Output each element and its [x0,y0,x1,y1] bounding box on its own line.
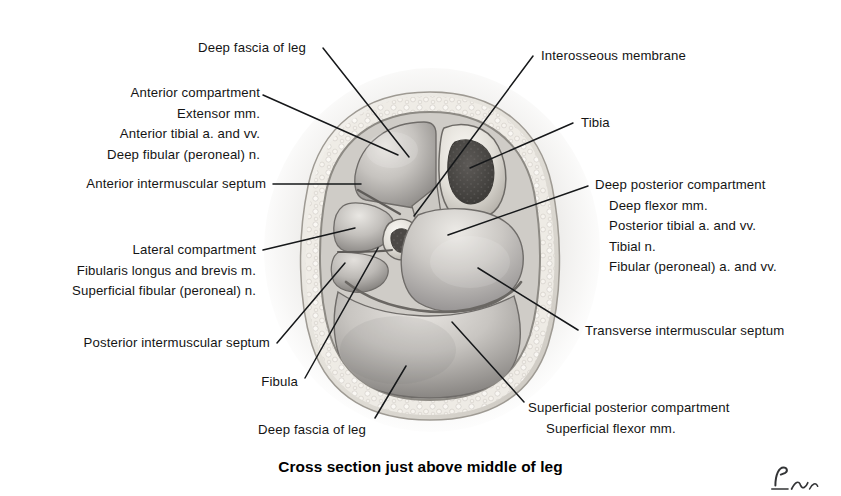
label-lateral-compartment-item-0: Fibularis longus and brevis m. [28,261,256,282]
label-lateral-compartment-item-1: Superficial fibular (peroneal) n. [28,281,256,302]
label-anterior-compartment-item-2: Deep fibular (peroneal) n. [36,145,260,166]
label-anterior-compartment: Anterior compartment Extensor mm. Anteri… [36,83,260,165]
label-transverse-intermuscular-septum: Transverse intermuscular septum [585,321,784,342]
label-tibia-text: Tibia [581,115,610,130]
label-superficial-posterior-compartment-item-0: Superficial flexor mm. [528,419,828,440]
label-anterior-intermuscular-septum-text: Anterior intermuscular septum [86,176,266,191]
label-superficial-posterior-compartment: Superficial posterior compartment Superf… [528,398,828,439]
label-transverse-intermuscular-septum-text: Transverse intermuscular septum [585,323,784,338]
label-deep-posterior-compartment-item-3: Fibular (peroneal) a. and vv. [595,257,835,278]
label-fibula: Fibula [190,372,298,393]
label-lateral-compartment-title: Lateral compartment [28,240,256,261]
label-deep-posterior-compartment-item-0: Deep flexor mm. [595,196,835,217]
label-posterior-intermuscular-septum-text: Posterior intermuscular septum [84,335,270,350]
label-deep-fascia-bottom-text: Deep fascia of leg [258,422,366,437]
figure-caption: Cross section just above middle of leg [0,458,841,476]
label-interosseous-membrane-text: Interosseous membrane [541,48,686,63]
label-tibia: Tibia [581,113,610,134]
label-deep-posterior-compartment-title: Deep posterior compartment [595,175,835,196]
label-posterior-intermuscular-septum: Posterior intermuscular septum [40,333,270,354]
label-deep-fascia-bottom: Deep fascia of leg [182,420,366,441]
label-fibula-text: Fibula [261,374,298,389]
label-anterior-intermuscular-septum: Anterior intermuscular septum [30,174,266,195]
label-anterior-compartment-item-1: Anterior tibial a. and vv. [36,124,260,145]
label-deep-fascia-top: Deep fascia of leg [180,38,324,59]
label-deep-posterior-compartment-item-1: Posterior tibial a. and vv. [595,216,835,237]
label-interosseous-membrane: Interosseous membrane [541,46,686,67]
label-superficial-posterior-compartment-title: Superficial posterior compartment [528,398,828,419]
label-deep-posterior-compartment-item-2: Tibial n. [595,237,835,258]
figure-caption-text: Cross section just above middle of leg [278,458,562,475]
anatomical-figure: Deep fascia of leg Interosseous membrane… [0,0,841,496]
label-deep-posterior-compartment: Deep posterior compartment Deep flexor m… [595,175,835,278]
label-deep-fascia-top-text: Deep fascia of leg [198,40,306,55]
label-anterior-compartment-item-0: Extensor mm. [36,104,260,125]
label-anterior-compartment-title: Anterior compartment [36,83,260,104]
label-lateral-compartment: Lateral compartment Fibularis longus and… [28,240,256,302]
